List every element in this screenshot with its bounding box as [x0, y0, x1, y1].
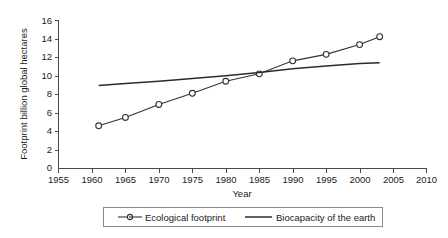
data-point-marker	[123, 115, 129, 121]
data-point-marker	[377, 34, 383, 40]
legend-label-ecological-footprint: Ecological footprint	[145, 212, 226, 223]
y-tick-marks	[55, 21, 59, 151]
chart-canvas: Footprint billion global hectares 16 14 …	[0, 0, 448, 238]
x-tick-label: 1955	[48, 174, 69, 185]
y-tick-label: 16	[41, 15, 52, 26]
data-point-marker	[290, 58, 296, 64]
x-tick-label: 2000	[349, 174, 370, 185]
legend-label-biocapacity: Biocapacity of the earth	[276, 212, 375, 223]
y-tick-label: 2	[47, 144, 52, 155]
data-point-marker	[323, 51, 329, 57]
series-line-biocapacity-of-the-earth	[99, 63, 380, 86]
y-tick-label: 4	[47, 125, 52, 136]
y-tick-label: 8	[47, 88, 52, 99]
x-tick-label: 1965	[115, 174, 136, 185]
x-tick-labels: 1955 1960 1965 1970 1975 1980 1985 1990 …	[48, 174, 437, 185]
legend: Ecological footprint Biocapacity of the …	[104, 208, 383, 227]
x-tick-label: 1980	[215, 174, 236, 185]
x-tick-label: 1990	[282, 174, 303, 185]
y-tick-label: 6	[47, 107, 52, 118]
y-axis-title-text: Footprint billion global hectares	[18, 28, 29, 160]
x-tick-label: 1975	[182, 174, 203, 185]
x-tick-label: 2010	[416, 174, 437, 185]
x-tick-label: 1985	[249, 174, 270, 185]
legend-item-biocapacity: Biocapacity of the earth	[245, 212, 375, 223]
data-point-marker	[96, 123, 102, 129]
x-tick-label: 2005	[383, 174, 404, 185]
y-tick-label: 10	[41, 70, 52, 81]
plot-area	[96, 34, 383, 129]
y-tick-labels: 16 14 12 10 8 6 4 2 0	[41, 15, 52, 174]
data-point-marker	[156, 102, 162, 108]
x-tick-label: 1970	[148, 174, 169, 185]
series-line-ecological-footprint	[99, 37, 380, 126]
data-point-marker	[189, 90, 195, 96]
y-tick-label: 14	[41, 33, 52, 44]
x-axis-title-text: Year	[232, 188, 251, 199]
y-tick-label: 12	[41, 51, 52, 62]
x-tick-marks	[59, 169, 427, 173]
line-chart: Footprint billion global hectares 16 14 …	[0, 0, 448, 238]
legend-item-ecological-footprint: Ecological footprint	[118, 212, 226, 223]
y-axis-title: Footprint billion global hectares	[18, 28, 29, 160]
data-point-marker	[223, 78, 229, 84]
y-tick-label: 0	[47, 162, 52, 173]
x-tick-label: 1995	[316, 174, 337, 185]
data-point-marker	[357, 42, 363, 48]
x-tick-label: 1960	[81, 174, 102, 185]
